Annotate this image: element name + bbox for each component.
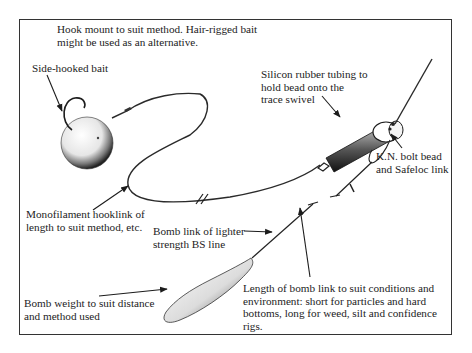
pointer-hooklink [93, 186, 128, 210]
label-bomb-weight: Bomb weight to suit distance and method … [24, 297, 155, 322]
label-silicon-tubing: Silicon rubber tubing to hold bead onto … [261, 68, 368, 106]
label-bomb-link-length: Length of bomb link to suit conditions a… [243, 282, 437, 332]
pointer-bomb-link-length [300, 208, 310, 277]
label-hook-mount: Hook mount to suit method. Hair-rigged b… [57, 23, 257, 48]
bait-icon [61, 117, 113, 169]
main-line [395, 59, 432, 124]
pointer-bomb-link [244, 231, 272, 232]
bolt-bead-icon [373, 121, 403, 142]
label-bomb-link: Bomb link of lighter strength BS line [153, 225, 245, 250]
hooklink-line [112, 93, 320, 202]
label-side-hooked-bait: Side-hooked bait [32, 62, 108, 75]
swivel-icon [318, 163, 329, 171]
pointer-bait [47, 75, 62, 111]
pointer-bomb [99, 289, 167, 296]
bomb-weight-icon [164, 258, 253, 322]
label-kn-bolt-bead: K.N. bolt bead and Safeloc link [376, 150, 449, 175]
label-monofilament: Monofilament hooklink of length to suit … [26, 208, 145, 233]
